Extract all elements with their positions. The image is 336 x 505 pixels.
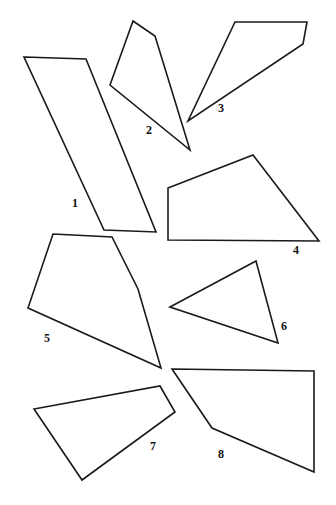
polygon-label-4: 4: [293, 244, 299, 256]
polygon-label-2: 2: [146, 124, 152, 136]
polygon-8[interactable]: [172, 369, 314, 472]
polygon-label-3: 3: [218, 102, 224, 114]
polygon-label-1: 1: [72, 197, 78, 209]
polygon-7[interactable]: [34, 386, 175, 480]
shapes-canvas: [0, 0, 336, 505]
polygon-5[interactable]: [28, 234, 161, 368]
polygon-label-5: 5: [44, 332, 50, 344]
polygon-figure: 1 2 3 4 5 6 7 8: [0, 0, 336, 505]
polygon-label-6: 6: [281, 320, 287, 332]
polygon-3[interactable]: [188, 22, 307, 121]
polygon-label-8: 8: [218, 448, 224, 460]
polygon-4[interactable]: [168, 155, 319, 241]
polygon-label-7: 7: [150, 440, 156, 452]
polygon-6[interactable]: [170, 261, 278, 343]
